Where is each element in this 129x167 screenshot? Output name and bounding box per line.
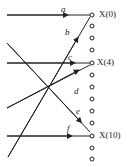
node-label-x0: X(0) [99,10,116,19]
flow-graph [0,0,129,167]
node-label-x4: X(4) [97,58,114,67]
node-label-x10: X(10) [99,131,121,140]
edge-label-e: e [76,107,80,116]
edge-label-c: c [68,53,72,62]
node-x10 [90,134,94,138]
edge-label-d: d [74,87,79,96]
edge-label-b: b [65,28,70,37]
node-x4 [90,61,94,65]
edge-label-a: a [61,5,66,14]
edge-label-f: f [67,124,70,133]
node-x0 [90,13,94,17]
